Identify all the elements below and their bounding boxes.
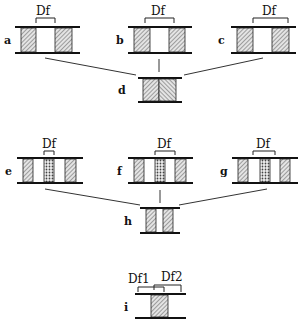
hatched-block-left xyxy=(238,159,248,182)
df2-bracket xyxy=(154,285,181,292)
df-bracket xyxy=(145,18,174,23)
panel-label-h: h xyxy=(124,215,132,228)
df1-bracket xyxy=(138,287,164,292)
diagram-canvas: a Df b Df c Df d e xyxy=(0,0,300,326)
panel-g: g Df xyxy=(220,137,298,183)
df-bracket xyxy=(253,18,288,23)
hatched-block-right xyxy=(175,159,186,182)
hatched-block-right xyxy=(169,28,185,52)
panel-label-g: g xyxy=(220,165,228,178)
hatched-block-right xyxy=(159,79,176,101)
panel-a: a Df xyxy=(4,4,80,53)
df-label: Df xyxy=(151,4,167,18)
hatched-block-right xyxy=(65,159,76,182)
panel-label-a: a xyxy=(4,34,11,47)
hatched-block-right xyxy=(55,28,72,52)
df2-label: Df2 xyxy=(161,270,183,284)
hatched-block-left xyxy=(143,79,159,101)
df-bracket xyxy=(44,151,54,155)
df-label: Df xyxy=(262,4,278,18)
panel-label-e: e xyxy=(5,165,12,178)
panel-label-i: i xyxy=(124,301,128,314)
panel-e: e Df xyxy=(5,137,83,183)
connector-g-to-h xyxy=(179,189,267,205)
panel-label-d: d xyxy=(118,84,126,97)
hatched-block-left xyxy=(21,28,36,52)
df-bracket xyxy=(36,18,55,23)
df-label: Df xyxy=(42,137,58,151)
hatched-block xyxy=(151,295,168,317)
df-label: Df xyxy=(256,137,272,151)
panel-label-c: c xyxy=(218,34,225,47)
connector-e-to-h xyxy=(45,189,140,205)
df-label: Df xyxy=(157,137,173,151)
df-label: Df xyxy=(36,4,52,18)
hatched-block-left xyxy=(134,159,144,182)
crosshatch-block-middle xyxy=(260,159,270,182)
hatched-block-left xyxy=(146,209,156,232)
hatched-block-left xyxy=(134,28,150,52)
crosshatch-block-middle xyxy=(155,159,165,182)
df1-label: Df1 xyxy=(128,272,150,286)
df-bracket xyxy=(155,151,175,155)
panel-f: f Df xyxy=(117,137,193,183)
panel-d: d xyxy=(118,78,182,102)
panel-label-f: f xyxy=(117,165,123,178)
hatched-block-left xyxy=(237,28,253,52)
panel-i: i Df1 Df2 xyxy=(124,270,186,318)
hatched-block-right xyxy=(163,209,173,232)
panel-h: h xyxy=(124,208,180,233)
df-bracket xyxy=(253,151,275,155)
crosshatch-block-middle xyxy=(44,159,54,182)
connector-c-to-d xyxy=(184,58,263,75)
hatched-block-right xyxy=(272,28,289,52)
panel-c: c Df xyxy=(218,4,296,53)
hatched-block-right xyxy=(280,159,290,182)
panel-b: b Df xyxy=(116,4,192,53)
connector-a-to-d xyxy=(45,58,136,75)
hatched-block-left xyxy=(23,159,33,182)
panel-label-b: b xyxy=(116,34,124,47)
